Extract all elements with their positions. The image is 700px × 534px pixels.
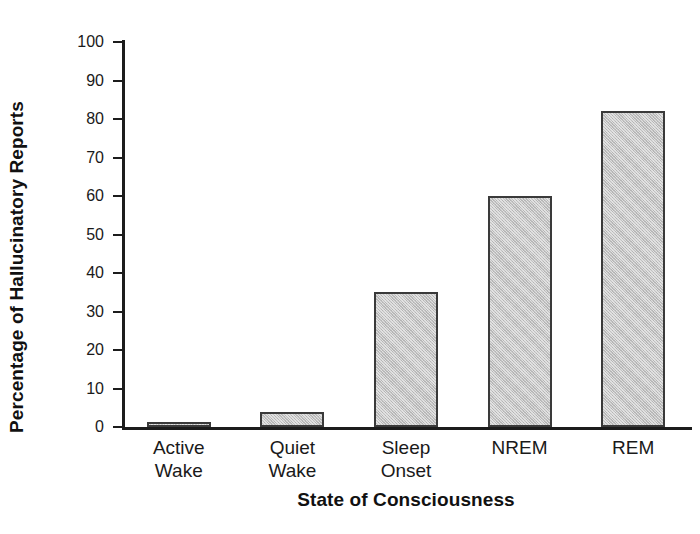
y-tick-label-30: 30 [58,302,104,322]
y-tick-label-text: 70 [86,149,104,167]
bar [374,292,438,427]
y-tick-label-text: 50 [86,226,104,244]
y-tick-label-text: 10 [86,380,104,398]
bar [260,412,324,427]
y-tick-label-text: 20 [86,341,104,359]
category-label: Sleep Onset [349,436,463,482]
y-tick-label-text: 0 [95,418,104,436]
x-axis-title: State of Consciousness [122,489,690,511]
y-tick-40 [113,272,122,274]
y-tick-70 [113,157,122,159]
y-tick-label-10: 10 [58,379,104,399]
y-tick-label-20: 20 [58,340,104,360]
y-tick-label-70: 70 [58,148,104,168]
y-tick-label-text: 80 [86,110,104,128]
y-tick-label-text: 60 [86,187,104,205]
category-label: Quiet Wake [236,436,350,482]
x-axis-line [122,427,692,430]
y-tick-90 [113,80,122,82]
y-tick-label-40: 40 [58,263,104,283]
category-label: NREM [463,436,577,459]
y-tick-100 [113,41,122,43]
y-tick-60 [113,195,122,197]
bar [601,111,665,427]
bars-container [122,42,690,427]
y-tick-label-0: 0 [58,417,104,437]
category-label: REM [576,436,690,459]
y-tick-10 [113,388,122,390]
bar [147,422,211,427]
y-tick-label-80: 80 [58,109,104,129]
bar-chart-figure: Percentage of Hallucinatory Reports 0102… [0,0,700,534]
y-tick-label-text: 40 [86,264,104,282]
y-tick-label-50: 50 [58,225,104,245]
y-axis-title: Percentage of Hallucinatory Reports [0,0,34,534]
y-tick-label-text: 90 [86,72,104,90]
y-tick-label-100: 100 [58,32,104,52]
y-tick-20 [113,349,122,351]
y-tick-0 [113,426,122,428]
category-label: Active Wake [122,436,236,482]
y-tick-label-60: 60 [58,186,104,206]
y-tick-50 [113,234,122,236]
bar [488,196,552,427]
y-tick-30 [113,311,122,313]
y-tick-label-90: 90 [58,71,104,91]
y-tick-80 [113,118,122,120]
y-tick-label-text: 100 [77,33,104,51]
y-tick-label-text: 30 [86,303,104,321]
